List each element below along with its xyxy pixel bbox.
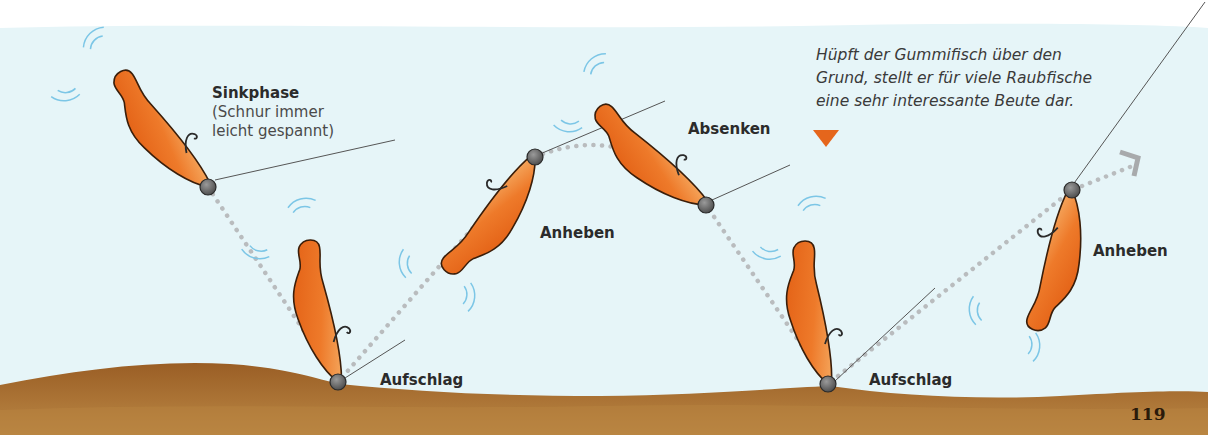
sinkphase-sub-2: leicht gespannt) xyxy=(212,122,334,141)
label-aufschlag-2: Aufschlag xyxy=(869,371,952,390)
sinkphase-title: Sinkphase xyxy=(212,84,334,103)
label-anheben-1: Anheben xyxy=(540,224,615,243)
sinkphase-sub-1: (Schnur immer xyxy=(212,103,334,122)
caption-line-2: Grund, stellt er für viele Raubfische xyxy=(816,67,1156,90)
label-absenken: Absenken xyxy=(688,120,771,139)
label-anheben-2: Anheben xyxy=(1093,242,1168,261)
triangle-marker-icon xyxy=(813,130,839,147)
page-number: 119 xyxy=(1130,404,1166,424)
label-aufschlag-1: Aufschlag xyxy=(380,371,463,390)
caption: Hüpft der Gummifisch über den Grund, ste… xyxy=(816,44,1156,113)
caption-line-3: eine sehr interessante Beute dar. xyxy=(816,90,1156,113)
caption-line-1: Hüpft der Gummifisch über den xyxy=(816,44,1156,67)
label-sinkphase: Sinkphase (Schnur immer leicht gespannt) xyxy=(212,84,334,141)
